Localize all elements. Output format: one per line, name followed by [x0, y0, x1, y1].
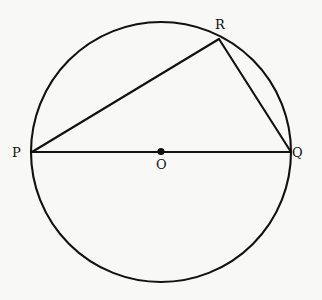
segment-RQ	[219, 39, 291, 152]
point-label-Q: Q	[292, 146, 303, 159]
segment-PR	[32, 39, 219, 152]
geometry-canvas	[0, 0, 322, 300]
point-label-P: P	[12, 146, 21, 159]
point-label-R: R	[215, 18, 225, 31]
circle-geometry-diagram: P Q R O	[0, 0, 322, 300]
center-dot	[157, 148, 164, 155]
point-label-O: O	[156, 158, 167, 171]
